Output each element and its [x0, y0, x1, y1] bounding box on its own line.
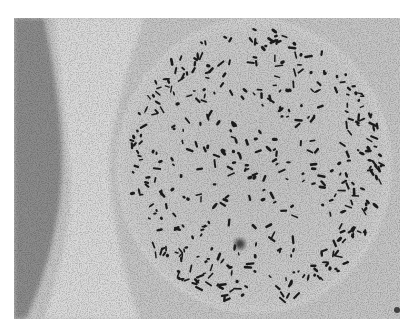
- micrograph-image: [14, 18, 400, 319]
- figure-caption: [14, 328, 400, 335]
- micrograph-photo: [14, 18, 400, 319]
- grain-overlay: [14, 18, 400, 319]
